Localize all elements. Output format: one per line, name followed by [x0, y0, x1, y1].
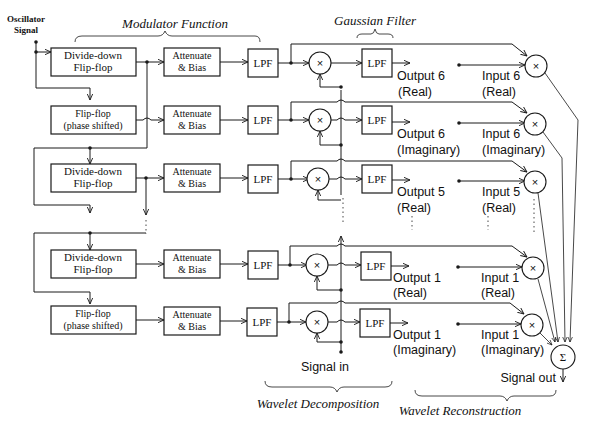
input-label: Input 5	[482, 185, 520, 199]
svg-text:Flip-flop: Flip-flop	[73, 177, 113, 189]
modulator-brace	[75, 31, 260, 42]
svg-text:LPF: LPF	[368, 57, 387, 69]
svg-text:(Real): (Real)	[482, 201, 516, 215]
svg-text:& Bias: & Bias	[178, 62, 206, 73]
svg-text:Divide-down: Divide-down	[64, 165, 123, 177]
svg-text:& Bias: & Bias	[178, 264, 206, 275]
svg-text:Attenuate: Attenuate	[173, 108, 212, 119]
svg-text:Attenuate: Attenuate	[173, 252, 212, 263]
decomposition-brace	[265, 381, 392, 392]
wavelet-reconstruction-title: Wavelet Reconstruction	[399, 403, 522, 418]
svg-text:LPF: LPF	[367, 260, 386, 272]
svg-text:×: ×	[532, 176, 538, 188]
svg-text:LPF: LPF	[254, 57, 273, 69]
gaussian-brace	[357, 29, 393, 38]
svg-text:(Imaginary): (Imaginary)	[481, 343, 544, 357]
svg-text:×: ×	[529, 319, 535, 331]
svg-text:Flip-flop: Flip-flop	[75, 108, 111, 119]
svg-text:LPF: LPF	[368, 114, 387, 126]
output-label: Output 6	[397, 69, 445, 83]
output-label: Output 6	[397, 127, 445, 141]
svg-text:Flip-flop: Flip-flop	[75, 308, 111, 319]
svg-text:×: ×	[317, 57, 323, 69]
svg-text:(phase shifted): (phase shifted)	[63, 320, 122, 332]
ellipsis-markers	[146, 198, 534, 234]
svg-text:×: ×	[532, 118, 538, 130]
oscillator-label-line1: Oscillator	[7, 14, 45, 24]
svg-text:(phase shifted): (phase shifted)	[63, 120, 122, 132]
svg-text:LPF: LPF	[254, 259, 273, 271]
svg-text:(Real): (Real)	[398, 85, 432, 99]
svg-text:(Real): (Real)	[397, 201, 431, 215]
svg-text:Flip-flop: Flip-flop	[73, 263, 113, 275]
svg-text:×: ×	[533, 60, 539, 72]
svg-text:Attenuate: Attenuate	[173, 50, 212, 61]
input-label: Input 1	[481, 328, 519, 342]
input-label: Input 1	[481, 271, 519, 285]
input-label: Input 6	[482, 69, 520, 83]
svg-text:& Bias: & Bias	[178, 321, 206, 332]
output-label: Output 1	[393, 271, 441, 285]
svg-text:LPF: LPF	[368, 173, 387, 185]
svg-text:Divide-down: Divide-down	[64, 49, 123, 61]
svg-text:Divide-down: Divide-down	[64, 251, 123, 263]
svg-text:Attenuate: Attenuate	[173, 166, 212, 177]
svg-text:(Real): (Real)	[393, 286, 427, 300]
svg-text:×: ×	[530, 262, 536, 274]
oscillator-label-line2: Signal	[14, 25, 39, 35]
row-output-1-real: Divide-down Flip-flop Attenuate & Bias L…	[34, 231, 544, 304]
sigma-symbol: Σ	[560, 351, 566, 363]
gaussian-filter-title: Gaussian Filter	[334, 13, 417, 28]
output-label: Output 5	[397, 185, 445, 199]
reconstruction-brace	[415, 390, 556, 401]
svg-text:(Real): (Real)	[482, 85, 516, 99]
wavelet-block-diagram: Oscillator Signal Modulator Function Gau…	[0, 0, 598, 422]
svg-text:×: ×	[314, 316, 320, 328]
svg-text:& Bias: & Bias	[178, 178, 206, 189]
svg-text:LPF: LPF	[254, 173, 273, 185]
wavelet-decomposition-title: Wavelet Decomposition	[257, 396, 380, 411]
svg-text:Attenuate: Attenuate	[173, 309, 212, 320]
row-output-1-imaginary: Flip-flop (phase shifted) Attenuate & Bi…	[51, 301, 544, 357]
svg-text:Flip-flop: Flip-flop	[73, 61, 113, 73]
output-label: Output 1	[393, 328, 441, 342]
signal-out-label: Signal out	[500, 371, 556, 385]
svg-text:& Bias: & Bias	[178, 120, 206, 131]
svg-text:(Imaginary): (Imaginary)	[393, 343, 456, 357]
svg-text:(Real): (Real)	[481, 286, 515, 300]
row-output-6-real: Divide-down Flip-flop Attenuate & Bias L…	[51, 44, 547, 99]
svg-text:×: ×	[314, 259, 320, 271]
svg-text:(Imaginary): (Imaginary)	[397, 143, 460, 157]
svg-text:(Imaginary): (Imaginary)	[482, 143, 545, 157]
input-label: Input 6	[482, 127, 520, 141]
signal-in-label: Signal in	[301, 360, 349, 374]
svg-text:LPF: LPF	[253, 316, 272, 328]
svg-text:LPF: LPF	[254, 114, 273, 126]
modulator-function-title: Modulator Function	[121, 16, 228, 31]
svg-text:×: ×	[315, 173, 321, 185]
svg-text:LPF: LPF	[366, 317, 385, 329]
svg-text:×: ×	[317, 114, 323, 126]
row-output-5-real: Divide-down Flip-flop Attenuate & Bias L…	[34, 62, 546, 215]
